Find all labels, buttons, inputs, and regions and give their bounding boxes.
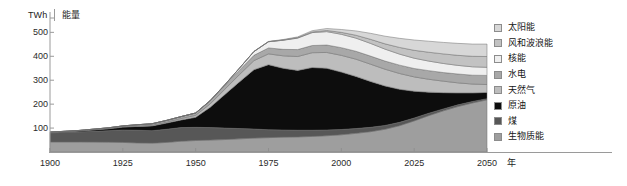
x-tick-label: 2050 <box>477 159 497 168</box>
legend-swatch-icon <box>494 102 502 110</box>
legend-swatch-icon <box>494 55 502 63</box>
legend-item-solar[interactable]: 太阳能 <box>494 20 624 36</box>
legend-swatch-icon <box>494 133 502 141</box>
legend-item-coal[interactable]: 煤 <box>494 114 624 130</box>
legend-swatch-icon <box>494 71 502 79</box>
legend-item-label: 天然气 <box>508 86 535 95</box>
legend-item-hydro[interactable]: 水电 <box>494 67 624 83</box>
legend-item-crude-oil[interactable]: 原油 <box>494 98 624 114</box>
legend-item-label: 水电 <box>508 70 526 79</box>
legend-item-nuclear[interactable]: 核能 <box>494 51 624 67</box>
legend-item-label: 风和波浪能 <box>508 39 553 48</box>
legend-item-natural-gas[interactable]: 天然气 <box>494 82 624 98</box>
x-tick-label: 2000 <box>331 159 351 168</box>
chart-legend: 太阳能风和波浪能核能水电天然气原油煤生物质能 <box>494 20 624 145</box>
x-tick-label: 2025 <box>404 159 424 168</box>
legend-item-label: 生物质能 <box>508 132 544 141</box>
x-tick-label: 1925 <box>113 159 133 168</box>
legend-swatch-icon <box>494 24 502 32</box>
x-tick-label: 1975 <box>258 159 278 168</box>
legend-item-label: 煤 <box>508 117 517 126</box>
legend-swatch-icon <box>494 117 502 125</box>
legend-item-label: 太阳能 <box>508 23 535 32</box>
legend-swatch-icon <box>494 86 502 94</box>
legend-item-biomass[interactable]: 生物质能 <box>494 129 624 145</box>
legend-item-label: 核能 <box>508 54 526 63</box>
legend-swatch-icon <box>494 39 502 47</box>
x-tick-label: 1950 <box>186 159 206 168</box>
energy-stacked-area-figure: TWh 能量 100200300400500 19001925195019752… <box>0 0 627 186</box>
legend-item-wind-wave[interactable]: 风和波浪能 <box>494 36 624 52</box>
x-tick-label: 1900 <box>40 159 60 168</box>
legend-item-label: 原油 <box>508 101 526 110</box>
x-axis-title: 年 <box>507 159 516 168</box>
